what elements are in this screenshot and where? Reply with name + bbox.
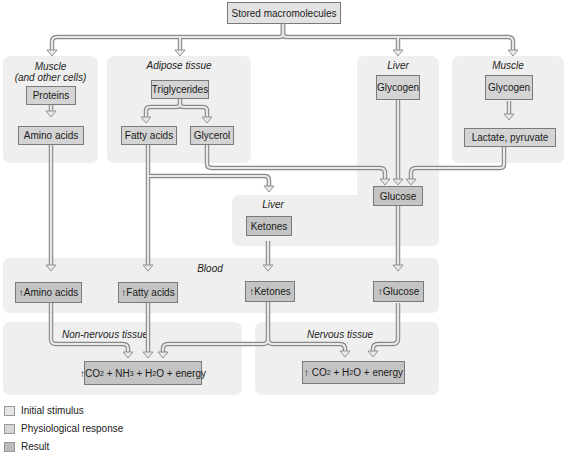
box-blood-glucose: ↑Glucose (373, 281, 424, 302)
label-liver-top: Liver (357, 60, 439, 72)
label-muscle-right: Muscle (452, 60, 564, 72)
legend-label: Result (21, 441, 49, 452)
legend-label: Initial stimulus (21, 405, 84, 416)
legend-physiological-response: Physiological response (4, 423, 123, 434)
box-nervous-result: ↑ CO2 + H2 O + energy (302, 361, 405, 384)
text-o-energy: O + energy (156, 368, 206, 379)
region-adipose-tissue (107, 56, 251, 163)
text-h: + H (331, 367, 350, 378)
legend-label: Physiological response (21, 423, 123, 434)
box-lactate-pyruvate: Lactate, pyruvate (464, 128, 556, 147)
label-nervous-tissue: Nervous tissue (295, 329, 385, 341)
box-glucose: Glucose (373, 186, 423, 206)
label-liver-ketones: Liver (248, 199, 298, 211)
label-non-nervous-tissue: Non-nervous tissue (50, 329, 160, 341)
legend-result: Result (4, 441, 49, 452)
box-muscle-glycogen: Glycogen (485, 75, 533, 100)
legend-swatch-initial (4, 406, 15, 416)
box-blood-amino-acids: ↑Amino acids (15, 282, 82, 303)
box-liver-glycogen: Glycogen (376, 75, 420, 100)
legend-swatch-response (4, 424, 15, 434)
box-fatty-acids: Fatty acids (121, 126, 177, 145)
box-amino-acids: Amino acids (18, 126, 84, 145)
text-co: CO (309, 367, 327, 378)
box-non-nervous-result: ↑ CO2 + NH3 + H2 O + energy (84, 361, 202, 385)
legend-initial-stimulus: Initial stimulus (4, 405, 84, 416)
box-blood-ketones: ↑Ketones (245, 281, 295, 302)
label-blood: Blood (180, 263, 240, 275)
text-o-energy: O + energy (353, 367, 403, 378)
box-stored-macromolecules: Stored macromolecules (227, 2, 341, 24)
label-and-other-cells: (and other cells) (3, 72, 98, 84)
label-adipose-tissue: Adipose tissue (107, 60, 251, 72)
box-blood-fatty-acids: ↑Fatty acids (118, 282, 178, 303)
legend-swatch-result (4, 442, 15, 452)
text-co: CO (85, 368, 100, 379)
box-proteins: Proteins (26, 86, 76, 105)
box-ketones: Ketones (246, 216, 292, 236)
text-h: + H (134, 368, 153, 379)
box-triglycerides: Triglycerides (151, 80, 209, 99)
text-nh: + NH (104, 368, 130, 379)
box-glycerol: Glycerol (190, 126, 234, 145)
